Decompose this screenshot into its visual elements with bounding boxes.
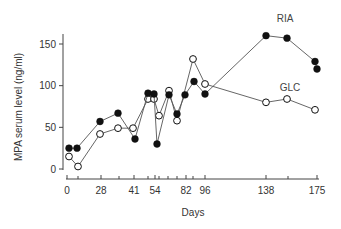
x-ticks: 02841548296138175 xyxy=(64,175,326,196)
glc-data-point xyxy=(75,163,82,170)
x-axis-title: Days xyxy=(182,207,205,218)
y-axis-title: MPA serum level (ng/ml) xyxy=(13,53,24,161)
ria-data-point xyxy=(151,91,158,98)
x-tick-label: 138 xyxy=(258,185,275,196)
ria-data-point xyxy=(284,35,291,42)
glc-data-point xyxy=(156,112,163,119)
glc-data-point xyxy=(190,56,197,63)
ria-data-point xyxy=(115,110,122,117)
ria-data-point xyxy=(174,111,181,118)
ria-data-point xyxy=(263,32,270,39)
chart: 050100150 MPA serum level (ng/ml) 028415… xyxy=(0,0,341,229)
ria-data-point xyxy=(314,66,321,73)
y-tick-label: 50 xyxy=(45,122,57,133)
ria-data-point xyxy=(74,145,81,152)
ria-data-point xyxy=(202,91,209,98)
ria-data-point xyxy=(191,78,198,85)
glc-data-point xyxy=(202,81,209,88)
y-tick-label: 150 xyxy=(39,39,56,50)
ria-data-point xyxy=(66,145,73,152)
y-tick-label: 100 xyxy=(39,80,56,91)
ria-data-point xyxy=(182,91,189,98)
ria-data-point xyxy=(132,136,139,143)
glc-data-point xyxy=(130,125,137,132)
glc-data-point xyxy=(115,125,122,132)
glc-data-point xyxy=(66,153,73,160)
ria-data-point xyxy=(312,58,319,65)
glc-data-point xyxy=(284,96,291,103)
ria-data-point xyxy=(97,118,104,125)
glc-data-point xyxy=(312,106,319,113)
glc-data-point xyxy=(97,131,104,138)
ria-data-point xyxy=(166,91,173,98)
ria-data-point xyxy=(154,141,161,148)
x-tick-label: 54 xyxy=(149,185,161,196)
y-ticks: 050100150 xyxy=(39,39,63,175)
x-tick-label: 82 xyxy=(180,185,192,196)
series-glc xyxy=(66,56,319,170)
glc-data-point xyxy=(263,99,270,106)
x-tick-label: 28 xyxy=(95,185,107,196)
ria-series-label: RIA xyxy=(277,13,294,24)
glc-data-point xyxy=(174,117,181,124)
x-tick-label: 41 xyxy=(128,185,140,196)
glc-series-label: GLC xyxy=(280,82,301,93)
y-tick-label: 0 xyxy=(50,164,56,175)
x-tick-label: 175 xyxy=(309,185,326,196)
series-line xyxy=(69,59,315,167)
x-tick-label: 0 xyxy=(64,185,70,196)
x-tick-label: 96 xyxy=(199,185,211,196)
ria-data-point xyxy=(145,90,152,97)
